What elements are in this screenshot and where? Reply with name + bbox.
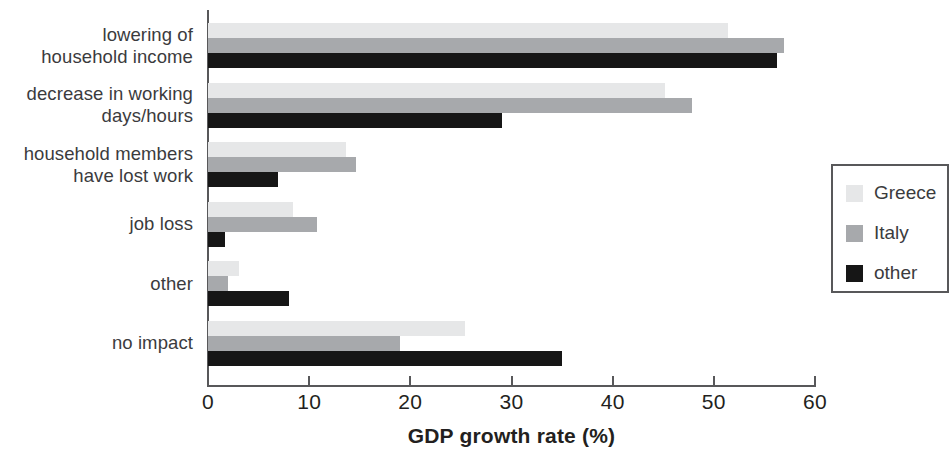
legend-label-italy: Italy xyxy=(874,222,909,244)
category-label-decrease-in-working-days-hours: decrease in working days/hours xyxy=(27,83,193,127)
x-axis-title: GDP growth rate (%) xyxy=(208,424,815,448)
bar-greece-3 xyxy=(208,202,293,217)
bar-other-0 xyxy=(208,53,777,68)
legend-label-other: other xyxy=(874,262,917,284)
bar-other-3 xyxy=(208,232,225,247)
bar-italy-3 xyxy=(208,217,317,232)
bar-greece-4 xyxy=(208,261,239,276)
x-axis-tick-label-30: 30 xyxy=(500,390,524,414)
bar-italy-5 xyxy=(208,336,400,351)
bar-greece-2 xyxy=(208,142,346,157)
x-axis-tick-label-20: 20 xyxy=(398,390,422,414)
x-axis-tick-20 xyxy=(409,376,411,385)
bar-other-2 xyxy=(208,172,278,187)
bar-italy-4 xyxy=(208,276,228,291)
legend-item-other: other xyxy=(846,262,917,284)
bar-italy-1 xyxy=(208,98,692,113)
category-label-lowering-of-household-income: lowering of household income xyxy=(41,24,193,68)
x-axis-tick-0 xyxy=(207,376,209,385)
legend-label-greece: Greece xyxy=(874,182,936,204)
legend-item-italy: Italy xyxy=(846,222,909,244)
x-axis-tick-10 xyxy=(308,376,310,385)
category-label-job-loss: job loss xyxy=(129,213,193,235)
bar-greece-0 xyxy=(208,23,728,38)
legend-swatch-greece-icon xyxy=(846,185,863,202)
plot-area xyxy=(208,10,815,385)
x-axis-tick-label-10: 10 xyxy=(297,390,321,414)
category-label-other: other xyxy=(150,273,193,295)
x-axis-tick-label-60: 60 xyxy=(803,390,827,414)
x-axis-tick-50 xyxy=(713,376,715,385)
bar-other-1 xyxy=(208,113,502,128)
bar-other-4 xyxy=(208,291,289,306)
bar-other-5 xyxy=(208,351,562,366)
x-axis-tick-40 xyxy=(612,376,614,385)
x-axis-tick-label-50: 50 xyxy=(702,390,726,414)
category-label-no-impact: no impact xyxy=(112,332,193,354)
x-axis-tick-label-40: 40 xyxy=(601,390,625,414)
category-label-household-members-have-lost-work: household members have lost work xyxy=(24,143,193,187)
bar-greece-1 xyxy=(208,83,665,98)
bar-italy-0 xyxy=(208,38,784,53)
x-axis-tick-label-0: 0 xyxy=(202,390,214,414)
bar-italy-2 xyxy=(208,157,356,172)
x-axis-tick-60 xyxy=(814,376,816,385)
x-axis-line xyxy=(207,385,816,387)
legend-item-greece: Greece xyxy=(846,182,936,204)
legend-swatch-italy-icon xyxy=(846,225,863,242)
legend: Greece Italy other xyxy=(831,164,949,293)
x-axis-tick-30 xyxy=(511,376,513,385)
legend-swatch-other-icon xyxy=(846,265,863,282)
bar-greece-5 xyxy=(208,321,465,336)
